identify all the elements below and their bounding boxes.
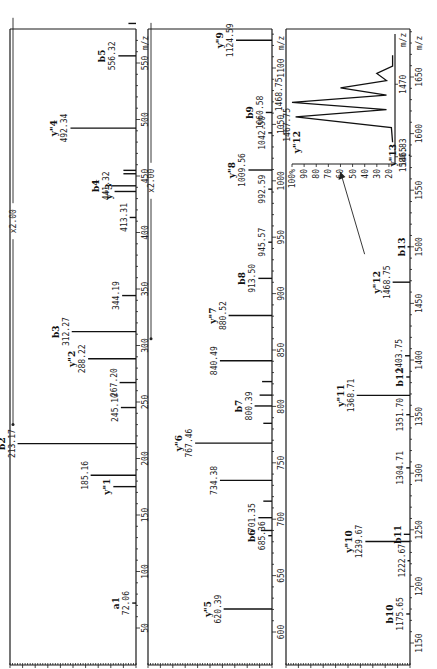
magnification-label: x2.00 [147, 169, 156, 193]
ion-label: b8 [237, 272, 247, 285]
peak-value-label: 1222.67 [398, 544, 407, 578]
peak-value-label: 492.34 [60, 114, 69, 143]
x-tick-label: 300 [141, 338, 150, 353]
x-tick-label: 950 [277, 230, 286, 245]
inset-x-tick-label: 1465 [399, 147, 408, 166]
mass-spectrum-chart: 0102030405060708090100%50100150200250300… [0, 0, 437, 669]
x-tick-label: 800 [277, 399, 286, 414]
inset-pointer-arrow [340, 172, 364, 254]
ion-label: y"5 [203, 601, 213, 618]
x-tick-label: 350 [141, 282, 150, 297]
peak-value-label: 1124.59 [226, 23, 235, 57]
x-tick-label: 150 [141, 508, 150, 523]
x-tick-label: 1000 [277, 171, 286, 190]
x-tick-label: 1400 [415, 350, 424, 369]
peak-value-label: 1239.67 [355, 524, 364, 558]
ion-label: b11 [393, 525, 403, 544]
inset-peak-label: 1468.75 [275, 77, 284, 111]
inset-ion-label: y"12 [292, 131, 302, 154]
x-tick-label: 550 [141, 56, 150, 71]
ion-label: y"6 [174, 435, 184, 452]
x-tick-label: 50 [141, 623, 150, 633]
x-tick-label: 750 [277, 455, 286, 470]
x-tick-label: 1650 [415, 67, 424, 86]
peak-value-label: 1304.71 [396, 451, 405, 485]
ion-label: y"4 [49, 120, 59, 137]
peak-value-label: 213.17 [8, 429, 17, 458]
x-tick-label: 700 [277, 512, 286, 527]
x-axis-label: m/z [415, 36, 424, 51]
x-tick-label: 1100 [277, 58, 286, 77]
inset-y-tick-label: 90 [300, 169, 309, 179]
peak-value-label: 800.39 [245, 391, 254, 420]
peak-value-label: 913.50 [248, 264, 257, 293]
x-tick-label: 1200 [415, 577, 424, 596]
x-tick-label: 1450 [415, 294, 424, 313]
peak-value-label: 685.36 [258, 521, 267, 550]
spectrum-figure: 0102030405060708090100%50100150200250300… [0, 0, 437, 669]
ion-label: y"10 [344, 530, 354, 553]
peak-value-label: 1060.58 [256, 95, 265, 129]
peak-value-label: 72.06 [122, 591, 131, 615]
x-tick-label: 1600 [415, 124, 424, 143]
x-tick-label: 1300 [415, 463, 424, 482]
x-tick-label: 1150 [415, 633, 424, 652]
ion-label: b2 [0, 437, 7, 450]
x-axis-label: m/z [141, 36, 150, 51]
x-tick-label: 400 [141, 225, 150, 240]
peak-value-label: 312.27 [62, 317, 71, 346]
ion-label: b3 [51, 325, 61, 338]
peak-value-label: 1351.70 [396, 398, 405, 432]
peak-value-label: 945.57 [258, 228, 267, 257]
peak-value-label: 767.46 [185, 428, 194, 457]
inset-peak-label: 1467.75 [283, 108, 292, 142]
inset-y-tick-label: 30 [373, 169, 382, 179]
magnification-start-marker [12, 423, 15, 426]
ion-label: b5 [97, 50, 107, 63]
peak-value-label: 185.16 [81, 461, 90, 490]
magnification-label: x2.00 [9, 209, 18, 233]
x-tick-label: 900 [277, 286, 286, 301]
ion-label: a1 [111, 597, 121, 609]
x-tick-label: 1500 [415, 237, 424, 256]
peak-value-label: 992.59 [258, 175, 267, 204]
ion-label: b7 [234, 400, 244, 413]
x-tick-label: 650 [277, 568, 286, 583]
peak-value-label: 556.32 [108, 41, 117, 70]
ion-label: y"8 [227, 162, 237, 179]
peak-value-label: 441.32 [102, 171, 111, 200]
x-tick-label: 1350 [415, 407, 424, 426]
ion-label: y"2 [67, 351, 77, 368]
peak-value-label: 701.35 [248, 503, 257, 532]
peak-value-label: 1368.71 [347, 378, 356, 412]
x-tick-label: 500 [141, 112, 150, 127]
inset-y-tick-label: 40 [361, 169, 370, 179]
peak-value-label: 840.49 [210, 346, 219, 375]
x-tick-label: 600 [277, 625, 286, 640]
ion-label: b4 [91, 180, 101, 193]
ion-label: b13 [397, 237, 407, 256]
peak-value-label: 413.31 [120, 203, 129, 232]
inset-x-tick-label: 1470 [399, 74, 408, 93]
ion-label: b10 [385, 605, 395, 624]
ion-label: y"9 [215, 32, 225, 49]
x-tick-label: 1250 [415, 520, 424, 539]
peak-value-label: 288.22 [78, 344, 87, 373]
x-tick-label: 250 [141, 395, 150, 410]
peak-value-label: 245.10 [111, 393, 120, 422]
x-tick-label: 1550 [415, 180, 424, 199]
inset-y-tick-label: 50 [349, 169, 358, 179]
ion-label: y"1 [102, 479, 112, 496]
inset-isotope-trace [292, 55, 393, 142]
inset-y-tick-label: 100% [288, 169, 297, 188]
x-tick-label: 850 [277, 343, 286, 358]
inset-y-tick-label: 80 [312, 169, 321, 179]
ion-label: y"11 [336, 384, 346, 407]
ion-label: y"7 [208, 307, 218, 324]
x-axis-label: m/z [277, 36, 286, 51]
peak-value-label: 1468.75 [383, 265, 392, 299]
inset-y-tick-label: 20 [385, 169, 394, 179]
inset-x-axis-label: m/z [399, 33, 408, 48]
peak-value-label: 1403.75 [395, 339, 404, 373]
inset-y-tick-label: 70 [324, 169, 333, 179]
